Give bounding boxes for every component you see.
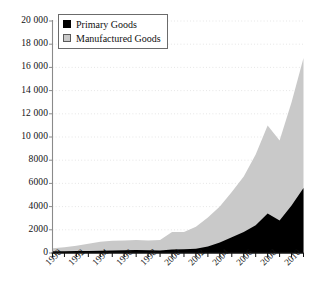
y-tick-label: 12 000 bbox=[0, 109, 48, 119]
y-tick-label: 20 000 bbox=[0, 16, 48, 26]
y-tick-label: 2000 bbox=[0, 225, 48, 235]
y-tick-label: 0 bbox=[0, 248, 48, 258]
y-tick-label: 18 000 bbox=[0, 39, 48, 49]
legend-label-manufactured-goods: Manufactured Goods bbox=[76, 33, 161, 44]
y-tick-label: 4000 bbox=[0, 202, 48, 212]
y-tick-label: 8000 bbox=[0, 155, 48, 165]
gray-square-swatch-icon bbox=[63, 34, 71, 42]
stacked-area-chart: 0200040006000800010 00012 00014 00016 00… bbox=[0, 0, 318, 299]
y-tick-label: 16 000 bbox=[0, 62, 48, 72]
series-areas bbox=[53, 58, 304, 253]
y-tick-label: 6000 bbox=[0, 178, 48, 188]
y-tick-label: 10 000 bbox=[0, 132, 48, 142]
y-tick-label: 14 000 bbox=[0, 86, 48, 96]
legend-label-primary-goods: Primary Goods bbox=[76, 19, 137, 30]
chart-legend: Primary Goods Manufactured Goods bbox=[58, 14, 168, 49]
legend-item-manufactured-goods: Manufactured Goods bbox=[63, 31, 161, 45]
legend-item-primary-goods: Primary Goods bbox=[63, 17, 161, 31]
black-square-swatch-icon bbox=[63, 20, 71, 28]
